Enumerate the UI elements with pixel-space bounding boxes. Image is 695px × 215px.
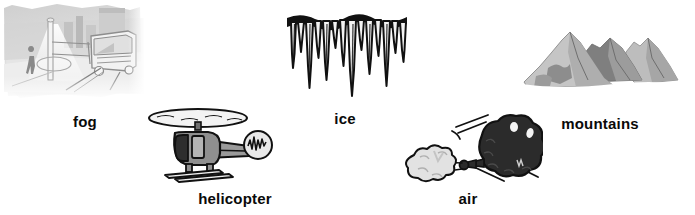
- fog-street-scene-icon: [2, 2, 145, 102]
- icicles-icon: [283, 8, 411, 100]
- caption-ice: ice: [334, 110, 355, 127]
- caption-mountains: mountains: [561, 115, 639, 132]
- air-balloon-blowing-icon: [378, 105, 543, 190]
- mountains-icon: [518, 18, 683, 103]
- worksheet-canvas: fog: [0, 0, 695, 215]
- caption-air: air: [459, 190, 478, 207]
- helicopter-icon: [145, 100, 275, 185]
- caption-helicopter: helicopter: [198, 190, 272, 207]
- caption-fog: fog: [73, 113, 97, 130]
